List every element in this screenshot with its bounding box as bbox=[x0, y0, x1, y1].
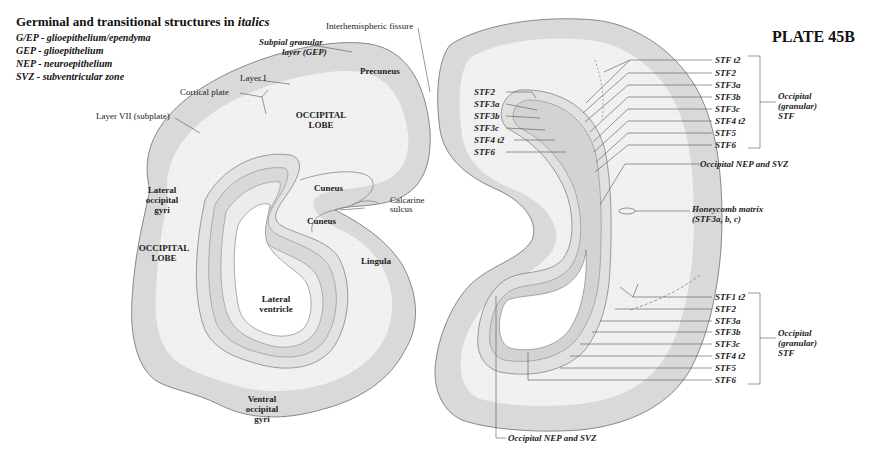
label-stf3b-upper: STF3b bbox=[715, 92, 741, 102]
label-occipital-granular-stf-upper: Occipital(granular)STF bbox=[778, 91, 817, 121]
label-ventral-occipital-gyri-line2: occipital bbox=[240, 404, 284, 414]
label-lingula: Lingula bbox=[361, 256, 391, 266]
label-precuneus: Precuneus bbox=[360, 66, 400, 76]
label-stf4-t2-lower: STF4 t2 bbox=[715, 351, 745, 361]
legend-item-nep: NEP - neuroepithelium bbox=[16, 58, 112, 69]
label-honeycomb-line2: (STF3a, b, c) bbox=[692, 214, 763, 224]
legend-title-text: Germinal and transitional structures in bbox=[16, 14, 238, 29]
label-ventral-occipital-gyri-line1: Ventral bbox=[240, 394, 284, 404]
label-cuneus-upper: Cuneus bbox=[314, 183, 343, 193]
label-occipital-lobe-left-line2: LOBE bbox=[136, 253, 192, 263]
label-cortical-plate: Cortical plate bbox=[180, 87, 229, 97]
label-ventral-occipital-gyri: Ventraloccipitalgyri bbox=[240, 394, 284, 424]
label-occipital-lobe-top-line2: LOBE bbox=[294, 120, 348, 130]
label-subpial-granular-2: layer (GEP) bbox=[282, 47, 327, 57]
label-upper-group-line1: Occipital bbox=[778, 91, 817, 101]
label-stf-t2-upper: STF t2 bbox=[715, 55, 741, 65]
label-occipital-lobe-left: OCCIPITALLOBE bbox=[136, 243, 192, 263]
label-stf1-t2-lower: STF1 t2 bbox=[715, 292, 745, 302]
label-lateral-occipital-gyri-line2: occipital bbox=[138, 195, 186, 205]
label-stf2-upper: STF2 bbox=[715, 68, 736, 78]
legend-item-gep: GEP - glioepithelium bbox=[16, 45, 103, 56]
label-lateral-ventricle-line2: ventricle bbox=[254, 304, 298, 314]
legend-title: Germinal and transitional structures in … bbox=[16, 14, 270, 30]
label-stf3a-upper: STF3a bbox=[715, 80, 741, 90]
label-lower-group-line2: (granular) bbox=[778, 338, 817, 348]
left-hemisphere-section bbox=[132, 43, 431, 417]
label-honeycomb-matrix: Honeycomb matrix(STF3a, b, c) bbox=[692, 204, 763, 224]
label-stf2-lower: STF2 bbox=[715, 304, 736, 314]
legend-title-emphasis: italics bbox=[238, 14, 270, 29]
label-cuneus-lower: Cuneus bbox=[307, 216, 336, 226]
label-stf4-t2-upper: STF4 t2 bbox=[715, 116, 745, 126]
label-stf3c-lower: STF3c bbox=[715, 339, 740, 349]
label-lateral-occipital-gyri-line3: gyri bbox=[138, 205, 186, 215]
plate-title: PLATE 45B bbox=[772, 28, 855, 46]
legend-item-svz: SVZ - subventricular zone bbox=[16, 71, 124, 82]
brain-sections-drawing bbox=[0, 0, 880, 455]
label-stf3a-lower: STF3a bbox=[715, 316, 741, 326]
label-stf3b-left: STF3b bbox=[474, 111, 500, 121]
label-stf3b-lower: STF3b bbox=[715, 327, 741, 337]
label-lateral-occipital-gyri-line1: Lateral bbox=[138, 185, 186, 195]
label-upper-group-line2: (granular) bbox=[778, 101, 817, 111]
label-honeycomb-line1: Honeycomb matrix bbox=[692, 204, 763, 214]
label-stf3a-left: STF3a bbox=[474, 99, 500, 109]
label-lower-group-line1: Occipital bbox=[778, 328, 817, 338]
label-stf5-lower: STF5 bbox=[715, 363, 736, 373]
label-calcarine-sulcus-line2: sulcus bbox=[390, 205, 424, 214]
label-stf6-lower: STF6 bbox=[715, 375, 736, 385]
label-ventral-occipital-gyri-line3: gyri bbox=[240, 414, 284, 424]
label-stf5-upper: STF5 bbox=[715, 128, 736, 138]
label-stf4-t2-left: STF4 t2 bbox=[474, 135, 504, 145]
label-lateral-occipital-gyri: Lateraloccipitalgyri bbox=[138, 185, 186, 215]
legend-item-gep-ep: G/EP - glioepithelium/ependyma bbox=[16, 32, 151, 43]
label-stf6-left: STF6 bbox=[474, 147, 495, 157]
label-occipital-lobe-left-line1: OCCIPITAL bbox=[136, 243, 192, 253]
label-lateral-ventricle: Lateralventricle bbox=[254, 294, 298, 314]
label-stf6-upper: STF6 bbox=[715, 140, 736, 150]
label-lower-group-line3: STF bbox=[778, 348, 817, 358]
label-lateral-ventricle-line1: Lateral bbox=[254, 294, 298, 304]
label-occipital-lobe-top: OCCIPITALLOBE bbox=[294, 110, 348, 130]
plate-diagram: Germinal and transitional structures in … bbox=[0, 0, 880, 455]
label-occipital-granular-stf-lower: Occipital(granular)STF bbox=[778, 328, 817, 358]
label-subpial-granular-1: Subpial granular bbox=[259, 37, 323, 47]
label-occipital-nep-svz-upper: Occipital NEP and SVZ bbox=[700, 159, 788, 169]
label-stf2-left: STF2 bbox=[474, 87, 495, 97]
label-stf3c-left: STF3c bbox=[474, 123, 499, 133]
label-interhemispheric-fissure: Interhemispheric fissure bbox=[326, 21, 413, 31]
label-occipital-lobe-top-line1: OCCIPITAL bbox=[294, 110, 348, 120]
label-upper-group-line3: STF bbox=[778, 111, 817, 121]
right-hemisphere-section bbox=[435, 19, 722, 431]
label-calcarine-sulcus: Calcarinesulcus bbox=[390, 196, 424, 214]
label-occipital-nep-svz-lower: Occipital NEP and SVZ bbox=[508, 433, 596, 443]
label-layer-vii-subplate: Layer VII (subplate) bbox=[96, 111, 170, 121]
label-layer-i: Layer I bbox=[240, 73, 266, 83]
label-stf3c-upper: STF3c bbox=[715, 104, 740, 114]
